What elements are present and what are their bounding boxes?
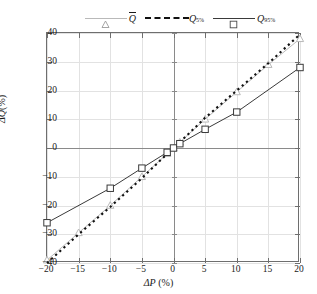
- x-tick-mark: [300, 258, 301, 263]
- y-tick-label: −10: [31, 171, 57, 181]
- x-tick-label: 15: [263, 264, 273, 274]
- chart-legend: Q Q5% Q95%: [60, 8, 300, 28]
- y-axis-title-unit: (%): [0, 95, 7, 110]
- plot-area: [46, 32, 299, 262]
- legend-label-q95-sub: 95%: [264, 17, 275, 23]
- x-axis-title-unit: (%): [156, 277, 174, 288]
- series-Q95: [44, 64, 303, 226]
- x-tick-label: −15: [70, 264, 85, 274]
- x-tick-label: 20: [294, 264, 304, 274]
- y-tick-label: 10: [31, 113, 57, 123]
- y-tick-label: −30: [31, 228, 57, 238]
- legend-label-q5: Q5%: [189, 13, 204, 24]
- x-axis-title-sym: ΔP: [144, 277, 156, 288]
- legend-label-qbar-text: Q: [129, 13, 136, 24]
- y-axis-title: ΔQ(%): [0, 95, 7, 123]
- triangle-open-icon: [101, 15, 108, 22]
- marker-square-open: [234, 109, 240, 115]
- x-tick-label: −5: [136, 264, 146, 274]
- legend-item-q5: Q5%: [145, 13, 204, 24]
- x-axis-title: ΔP (%): [0, 277, 317, 288]
- y-axis-title-sym: ΔQ: [0, 110, 7, 123]
- legend-label-q95: Q95%: [257, 13, 275, 24]
- legend-key-q5: [145, 13, 187, 24]
- legend-label-q95-base: Q: [257, 13, 264, 24]
- x-tick-label: 5: [202, 264, 207, 274]
- legend-line-dashed-black: [145, 17, 189, 19]
- y-tick-label: 0: [31, 142, 57, 152]
- marker-square-open: [297, 64, 303, 70]
- legend-item-qbar: Q: [85, 13, 136, 24]
- y-tick-label: 40: [31, 27, 57, 37]
- y-tick-label: 30: [31, 56, 57, 66]
- marker-square-open: [177, 140, 183, 146]
- data-series-layer: [47, 33, 300, 263]
- y-tick-label: 20: [31, 85, 57, 95]
- legend-label-q5-base: Q: [189, 13, 196, 24]
- legend-label-qbar: Q: [129, 13, 136, 24]
- x-tick-label: −10: [102, 264, 117, 274]
- marker-square-open: [164, 149, 170, 155]
- marker-square-open: [44, 220, 50, 226]
- legend-key-qbar: [85, 13, 127, 24]
- marker-square-open: [202, 126, 208, 132]
- marker-square-open: [107, 185, 113, 191]
- x-tick-label: 0: [170, 264, 175, 274]
- square-open-icon: [229, 15, 236, 22]
- marker-square-open: [170, 145, 176, 151]
- marker-square-open: [139, 165, 145, 171]
- legend-key-q95: [213, 13, 255, 24]
- y-tick-label: −40: [31, 257, 57, 267]
- y-tick-label: −20: [31, 200, 57, 210]
- legend-label-q5-sub: 5%: [196, 17, 204, 23]
- x-tick-label: 10: [231, 264, 241, 274]
- chart-figure: Q Q5% Q95% −20−15−10−505101520 −40−30−20…: [0, 0, 317, 294]
- legend-item-q95: Q95%: [213, 13, 275, 24]
